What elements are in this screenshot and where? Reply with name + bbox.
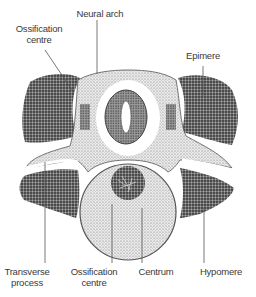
epimere-left bbox=[22, 74, 80, 143]
label-line-2: centre bbox=[10, 34, 68, 45]
label-hypomere: Hypomere bbox=[196, 266, 246, 277]
hypomere-left bbox=[20, 169, 80, 218]
label-ossification-centre-bottom: Ossification centre bbox=[70, 266, 118, 288]
label-epimere: Epimere bbox=[180, 50, 226, 61]
hypomere-right bbox=[180, 168, 234, 218]
label-ossification-centre-top: Ossification centre bbox=[10, 23, 68, 45]
label-centrum: Centrum bbox=[136, 266, 176, 277]
ossification-centre-centrum bbox=[111, 166, 145, 200]
neural-arch-left bbox=[80, 104, 90, 130]
epimere-right bbox=[178, 75, 238, 145]
label-line-1: Ossification bbox=[70, 266, 118, 277]
label-line-1: Transverse bbox=[3, 266, 51, 277]
label-line-2: process bbox=[3, 277, 51, 288]
label-neural-arch: Neural arch bbox=[72, 8, 128, 19]
label-line-2: centre bbox=[70, 277, 118, 288]
neural-arch-right bbox=[166, 104, 176, 130]
label-line-1: Ossification bbox=[10, 23, 68, 34]
label-transverse-process: Transverse process bbox=[3, 266, 51, 288]
neural-canal bbox=[121, 101, 131, 133]
